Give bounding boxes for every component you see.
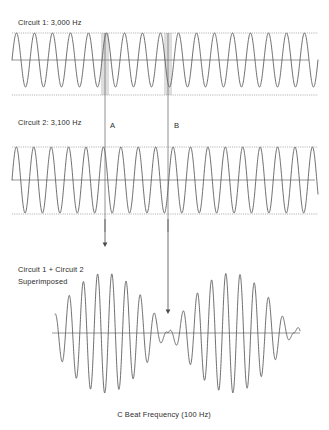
marker-b-label: B [174,121,179,130]
panel-3-label-line1: Circuit 1 + Circuit 2 [18,265,84,274]
marker-a-label: A [110,121,116,130]
beat-frequency-diagram: Circuit 1: 3,000 Hz Circuit 2: 3,100 Hz … [0,0,329,430]
panel-circuit-2: Circuit 2: 3,100 Hz [12,118,318,214]
projection-arrows [103,219,171,314]
marker-a-arrow-head [103,242,108,247]
marker-b-arrow-head [166,309,171,314]
panel-3-label-line2: Superimposed [18,277,67,286]
marker-lines: A B [105,33,179,232]
panel-circuit-1: Circuit 1: 3,000 Hz [12,18,318,95]
panel-superimposed: Circuit 1 + Circuit 2 Superimposed [18,265,300,393]
panel-2-label: Circuit 2: 3,100 Hz [18,118,82,127]
figure-caption: C Beat Frequency (100 Hz) [117,410,211,419]
panel-1-label: Circuit 1: 3,000 Hz [18,18,82,27]
